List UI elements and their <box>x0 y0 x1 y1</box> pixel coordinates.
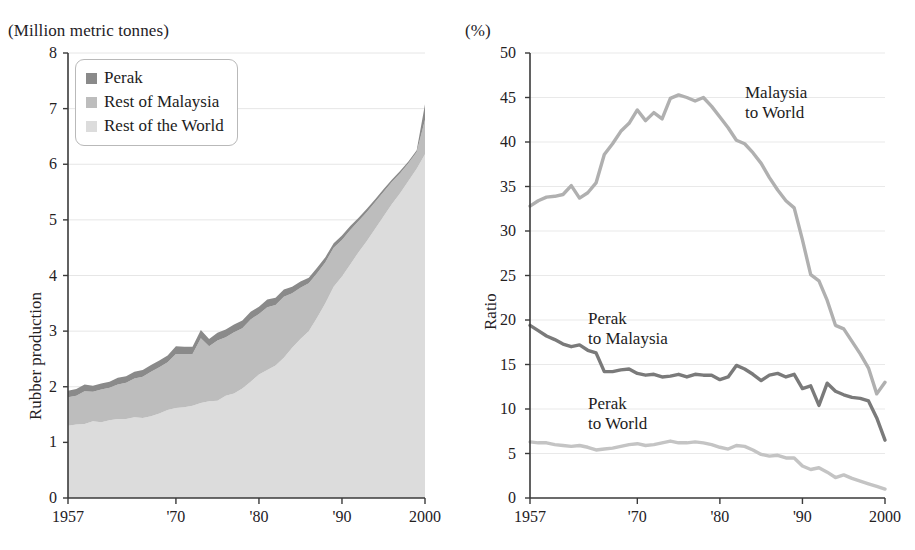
malaysia-to-world-label-line1: Malaysia <box>745 83 807 103</box>
ratio-y-tick-15: 15 <box>482 357 516 373</box>
ratio-y-tick-20: 20 <box>482 312 516 328</box>
ratio-x-tick-1957: 1957 <box>498 509 562 525</box>
production-x-tick-80: '80 <box>227 509 291 525</box>
malaysia-to-world-label-line2: to World <box>745 103 807 123</box>
production-y-tick-3: 3 <box>23 323 57 339</box>
ratio-y-tick-45: 45 <box>482 90 516 106</box>
legend-item-perak: Perak <box>86 66 224 90</box>
ratio-y-tick-10: 10 <box>482 401 516 417</box>
production-y-tick-8: 8 <box>23 45 57 61</box>
line-perak-to-malaysia <box>530 325 885 440</box>
production-x-tick-1957: 1957 <box>36 509 100 525</box>
production-y-tick-4: 4 <box>23 268 57 284</box>
legend-swatch-icon <box>86 97 97 108</box>
ratio-x-tick-2000: 2000 <box>853 509 915 525</box>
production-y-tick-0: 0 <box>23 490 57 506</box>
production-legend: PerakRest of MalaysiaRest of the World <box>75 59 238 146</box>
ratio-y-tick-50: 50 <box>482 45 516 61</box>
production-x-tick-90: '90 <box>310 509 374 525</box>
production-y-tick-5: 5 <box>23 212 57 228</box>
ratio-y-tick-5: 5 <box>482 446 516 462</box>
perak-to-malaysia-label-line2: to Malaysia <box>588 329 668 349</box>
perak-to-malaysia-label-line1: Perak <box>588 309 668 329</box>
legend-swatch-icon <box>86 73 97 84</box>
ratio-x-tick-80: '80 <box>688 509 752 525</box>
ratio-y-tick-35: 35 <box>482 179 516 195</box>
production-y-tick-1: 1 <box>23 434 57 450</box>
legend-item-rest-of-malaysia: Rest of Malaysia <box>86 90 224 114</box>
production-y-tick-7: 7 <box>23 101 57 117</box>
ratio-y-tick-0: 0 <box>482 490 516 506</box>
production-x-tick-2000: 2000 <box>393 509 457 525</box>
perak-to-malaysia-label: Perak to Malaysia <box>588 309 668 349</box>
production-y-tick-2: 2 <box>23 379 57 395</box>
legend-swatch-icon <box>86 121 97 132</box>
ratio-y-tick-30: 30 <box>482 223 516 239</box>
legend-item-rest-of-the-world: Rest of the World <box>86 114 224 138</box>
production-y-tick-6: 6 <box>23 156 57 172</box>
perak-to-world-label-line1: Perak <box>588 394 647 414</box>
ratio-x-tick-90: '90 <box>770 509 834 525</box>
ratio-chart: (%) Ratio Malaysia to World Perak to Mal… <box>457 0 915 550</box>
ratio-y-tick-40: 40 <box>482 134 516 150</box>
line-perak-to-world <box>530 441 885 489</box>
perak-to-world-label-line2: to World <box>588 414 647 434</box>
legend-label: Perak <box>104 68 143 88</box>
ratio-y-tick-25: 25 <box>482 268 516 284</box>
ratio-x-tick-70: '70 <box>605 509 669 525</box>
rubber-production-chart: (Million metric tonnes) Rubber productio… <box>0 0 458 550</box>
legend-label: Rest of Malaysia <box>104 92 219 112</box>
malaysia-to-world-label: Malaysia to World <box>745 83 807 123</box>
perak-to-world-label: Perak to World <box>588 394 647 434</box>
legend-label: Rest of the World <box>104 116 224 136</box>
ratio-plot-area <box>457 0 915 550</box>
production-x-tick-70: '70 <box>144 509 208 525</box>
